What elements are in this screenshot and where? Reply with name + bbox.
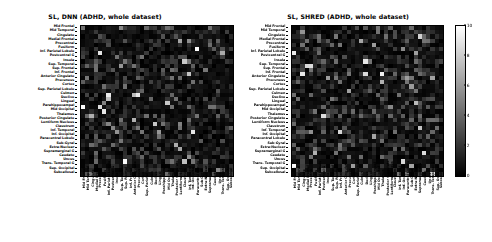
shred-xtick-label: Precuneus xyxy=(347,168,351,187)
shred-xtick-label: Thalamus xyxy=(381,169,385,187)
dnn-xtick: Precentral xyxy=(97,176,101,182)
panel-title-shred: SL, SHRED (ADHD, whole dataset) xyxy=(248,13,448,21)
dnn-xtick-label: Parahippocampal xyxy=(162,162,166,193)
y-axis-labels-shred: Mid FrontalMid TemporalCingulateMedial F… xyxy=(211,25,289,175)
colorbar-tick-label: 0 xyxy=(467,173,470,178)
colorbar-ticks: 0246810 xyxy=(464,25,489,175)
shred-xtick-label: Cingulate xyxy=(301,169,305,186)
dnn-xtick: Mid Frontal xyxy=(80,176,84,182)
colorbar-tick-label: 6 xyxy=(467,83,470,88)
x-axis-labels-shred: Mid FrontalMid TemporalCingulateMedial F… xyxy=(291,176,442,240)
colorbar-tick-mark xyxy=(464,115,466,116)
shred-xtick: Mid Frontal xyxy=(291,176,295,182)
colorbar-tick-mark xyxy=(464,55,466,56)
shred-ytick: Subcallosal xyxy=(265,170,289,174)
shred-xtick-label: Culmen xyxy=(360,171,364,185)
shred-xtick-label: Caudate xyxy=(423,170,427,185)
colorbar-tick-label: 2 xyxy=(467,143,470,148)
colorbar-tick: 6 xyxy=(464,83,470,88)
colorbar-tick: 0 xyxy=(464,173,470,178)
shred-xtick-label: Inf. Frontal xyxy=(339,168,343,188)
x-axis-labels-dnn: Mid FrontalMid TemporalCingulateMedial F… xyxy=(80,176,232,240)
dnn-xtick-label: Claustrum xyxy=(183,169,187,188)
dnn-xtick-label: Sup. Parietal Lobule xyxy=(145,160,149,197)
colorbar-tick-mark xyxy=(464,25,466,26)
colorbar-tick-mark xyxy=(464,85,466,86)
dnn-xtick: Lentiform Nucleus xyxy=(177,176,181,182)
colorbar-tick: 10 xyxy=(464,23,472,28)
colorbar-tick: 8 xyxy=(464,53,470,58)
dnn-xtick: Parahippocampal xyxy=(160,176,164,182)
heatmap-shred-image xyxy=(292,26,443,176)
dnn-ytick: Subcallosal xyxy=(54,170,78,174)
panel-title-dnn: SL, DNN (ADHD, whole dataset) xyxy=(0,13,228,21)
y-axis-labels-dnn: Mid FrontalMid TemporalCingulateMedial F… xyxy=(0,25,78,175)
figure-canvas: SL, DNN (ADHD, whole dataset) Mid Fronta… xyxy=(0,0,492,242)
heatmap-shred xyxy=(291,25,444,177)
shred-xtick-label: Inf. Temporal xyxy=(398,166,402,190)
dnn-xtick-label: Sup. Frontal xyxy=(124,167,128,189)
colorbar-tick-label: 4 xyxy=(467,113,470,118)
shred-xtick-label: Subcallosal xyxy=(440,168,444,189)
colorbar-tick: 4 xyxy=(464,113,470,118)
colorbar-tick: 2 xyxy=(464,143,470,148)
colorbar-tick-label: 8 xyxy=(467,53,470,58)
colorbar-tick-mark xyxy=(464,145,466,146)
dnn-xtick-label: Cingulate xyxy=(90,169,94,186)
shred-xtick-label: Cortex xyxy=(352,172,356,184)
colorbar: 0246810 xyxy=(455,25,489,175)
colorbar-tick-label: 10 xyxy=(467,23,473,28)
colorbar-tick-mark xyxy=(464,175,466,176)
